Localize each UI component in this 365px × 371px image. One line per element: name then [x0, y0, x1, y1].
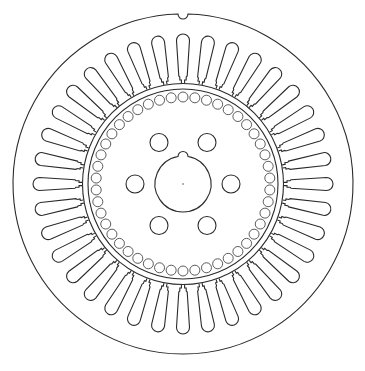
- rotor-bar-hole: [249, 129, 259, 139]
- rotor-bar-hole: [123, 112, 133, 122]
- vent-hole: [198, 133, 216, 151]
- rotor-bar-hole: [166, 265, 176, 275]
- center-mark: [182, 183, 184, 185]
- rotor-bar-hole: [213, 99, 223, 109]
- slot-outline: [256, 83, 302, 124]
- shaft-bore: [155, 151, 211, 212]
- rotor-bar-hole: [190, 93, 200, 103]
- slot-outline: [64, 244, 110, 285]
- stator-slot: [256, 83, 302, 124]
- stator-slot: [33, 178, 82, 191]
- rotor-bar-hole: [114, 120, 124, 130]
- stator-slot: [50, 229, 99, 265]
- slot-outline: [177, 285, 190, 334]
- slot-outline: [102, 51, 138, 100]
- stator-slot: [194, 35, 215, 86]
- slot-outline: [82, 257, 123, 303]
- rotor-bar-hole: [123, 246, 133, 256]
- slot-outline: [267, 229, 316, 265]
- stator-slot: [64, 244, 110, 285]
- stator-slot: [243, 65, 284, 111]
- vent-hole: [222, 175, 240, 193]
- rotor-bar-hole: [133, 253, 143, 263]
- slot-outline: [228, 51, 264, 100]
- rotor-hub: [126, 133, 240, 234]
- slot-outline: [102, 268, 138, 317]
- stator-slot: [256, 244, 302, 285]
- slot-outline: [281, 195, 332, 216]
- stator-slot: [267, 103, 316, 139]
- stator-slot: [102, 51, 138, 100]
- slot-outline: [243, 65, 284, 111]
- slot-outline: [228, 268, 264, 317]
- stator-slot: [102, 268, 138, 317]
- rotor-bar-hole: [265, 173, 275, 183]
- stator-slot: [284, 178, 333, 191]
- slot-outline: [194, 282, 215, 333]
- rotor-bar-hole: [93, 197, 103, 207]
- rotor-bar-hole: [223, 253, 233, 263]
- slot-outline: [177, 34, 190, 83]
- rotor-bar-hole: [255, 219, 265, 229]
- rotor-bar-hole: [233, 246, 243, 256]
- slot-outline: [33, 178, 82, 191]
- slot-outline: [64, 83, 110, 124]
- slot-outline: [34, 152, 85, 173]
- slot-outline: [256, 244, 302, 285]
- vent-hole: [150, 133, 168, 151]
- stator-slot: [228, 268, 264, 317]
- stator-slot: [281, 195, 332, 216]
- stator-slot: [243, 257, 284, 303]
- rotor-bar-hole: [143, 259, 153, 269]
- stator-slot: [50, 103, 99, 139]
- rotor-bar-hole: [96, 208, 106, 218]
- slot-outline: [267, 103, 316, 139]
- rotor-bar-hole: [255, 139, 265, 149]
- rotor-bar-hole: [233, 112, 243, 122]
- stator-slot: [194, 282, 215, 333]
- rotor-bar-hole: [190, 265, 200, 275]
- rotor-bar-hole: [101, 219, 111, 229]
- stator-slot: [228, 51, 264, 100]
- slot-outline: [50, 103, 99, 139]
- slot-outline: [34, 195, 85, 216]
- rotor-bar-hole: [114, 238, 124, 248]
- slot-outline: [284, 178, 333, 191]
- rotor-bar-hole: [178, 92, 188, 102]
- stator-slot: [177, 34, 190, 83]
- stator-slot: [64, 83, 110, 124]
- stator-slot: [82, 257, 123, 303]
- rotor-bar-hole: [201, 263, 211, 273]
- rotor-bar-hole: [107, 129, 117, 139]
- slot-outline: [50, 229, 99, 265]
- rotor-bar-hole: [201, 95, 211, 105]
- rotor-bar-hole: [166, 93, 176, 103]
- stator-slot: [34, 195, 85, 216]
- rotor-bar-hole: [93, 161, 103, 171]
- vent-hole: [150, 217, 168, 235]
- rotor-bar-hole: [101, 139, 111, 149]
- rotor-bar-hole: [265, 185, 275, 195]
- slot-outline: [82, 65, 123, 111]
- stator-slot: [82, 65, 123, 111]
- rotor-bar-hole: [260, 150, 270, 160]
- lamination-diagram: Induction motor stator and rotor laminat…: [0, 0, 365, 371]
- rotor-bar-hole: [96, 150, 106, 160]
- rotor-bar-hole: [260, 208, 270, 218]
- rotor-bar-hole: [223, 105, 233, 115]
- rotor-bar-hole: [263, 197, 273, 207]
- slot-outline: [151, 35, 172, 86]
- rotor-bar-hole: [91, 185, 101, 195]
- rotor-bar-hole: [91, 173, 101, 183]
- slot-outline: [243, 257, 284, 303]
- rotor-bar-hole: [107, 229, 117, 239]
- rotor-bar-hole: [242, 238, 252, 248]
- rotor-bar-hole: [178, 266, 188, 276]
- stator-slot: [151, 282, 172, 333]
- rotor-bar-hole: [213, 259, 223, 269]
- rotor-bar-hole: [143, 99, 153, 109]
- slot-outline: [151, 282, 172, 333]
- rotor-bar-hole: [133, 105, 143, 115]
- stator-slot: [34, 152, 85, 173]
- rotor-bar-hole: [242, 120, 252, 130]
